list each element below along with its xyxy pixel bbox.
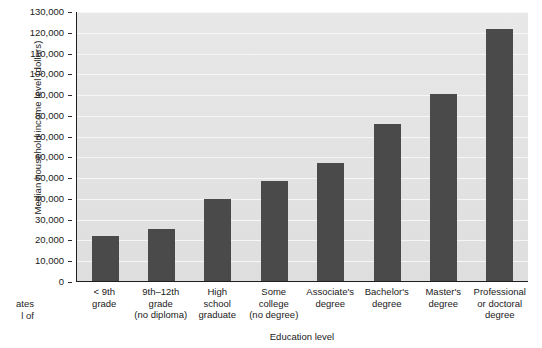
y-tick-label: 50,000	[35, 173, 64, 183]
x-axis-title: Education level	[76, 331, 528, 342]
y-tick-mark	[68, 33, 72, 34]
x-tick-label: Associate's degree	[302, 286, 359, 321]
y-tick-label: 130,000	[30, 7, 64, 17]
bar-slot	[133, 12, 189, 281]
y-tick-label: 80,000	[35, 111, 64, 121]
bar-slot	[472, 12, 528, 281]
y-tick-mark	[68, 12, 72, 13]
bar	[92, 236, 119, 281]
bar-series	[77, 12, 528, 281]
x-axis-tick-labels: < 9th grade9th–12th grade (no diploma)Hi…	[76, 286, 528, 321]
y-tick-label: 120,000	[30, 28, 64, 38]
y-tick-label: 110,000	[30, 49, 64, 59]
caption-remnant-text: ates l of	[0, 298, 34, 322]
bar	[317, 163, 344, 281]
y-tick-mark	[68, 74, 72, 75]
y-tick-mark	[68, 137, 72, 138]
y-tick-label: 40,000	[35, 194, 64, 204]
y-tick-label: 0	[59, 277, 64, 287]
x-tick-label: Master's degree	[415, 286, 472, 321]
y-tick-label: 70,000	[35, 132, 64, 142]
bar-slot	[303, 12, 359, 281]
bar	[204, 199, 231, 281]
y-tick-mark	[68, 199, 72, 200]
bar	[261, 181, 288, 281]
x-tick-label: High school graduate	[189, 286, 246, 321]
y-tick-label: 100,000	[30, 69, 64, 79]
y-tick-mark	[68, 220, 72, 221]
y-tick-mark	[68, 116, 72, 117]
bar-slot	[190, 12, 246, 281]
y-tick-label: 10,000	[35, 256, 64, 266]
y-tick-label: 20,000	[35, 235, 64, 245]
bar	[148, 229, 175, 281]
y-tick-label: 90,000	[35, 90, 64, 100]
y-tick-mark	[68, 95, 72, 96]
bar-slot	[415, 12, 471, 281]
y-tick-mark	[68, 157, 72, 158]
y-tick-mark	[68, 282, 72, 283]
y-tick-mark	[68, 261, 72, 262]
bar	[486, 29, 513, 281]
y-tick-label: 30,000	[35, 215, 64, 225]
bar-slot	[359, 12, 415, 281]
y-tick-label: 60,000	[35, 152, 64, 162]
x-tick-label: < 9th grade	[76, 286, 133, 321]
bar	[430, 94, 457, 281]
y-tick-mark	[68, 178, 72, 179]
bar-slot	[246, 12, 302, 281]
x-tick-label: Bachelor's degree	[359, 286, 416, 321]
x-tick-label: Some college (no degree)	[246, 286, 303, 321]
bar	[374, 124, 401, 281]
bar-chart-figure: Median household income level (dollars) …	[0, 0, 542, 348]
x-tick-label: Professional or doctoral degree	[472, 286, 529, 321]
x-tick-label: 9th–12th grade (no diploma)	[133, 286, 190, 321]
bar-slot	[77, 12, 133, 281]
y-tick-mark	[68, 54, 72, 55]
y-axis-tick-labels: 010,00020,00030,00040,00050,00060,00070,…	[10, 0, 72, 348]
y-tick-mark	[68, 240, 72, 241]
plot-area	[76, 12, 528, 282]
